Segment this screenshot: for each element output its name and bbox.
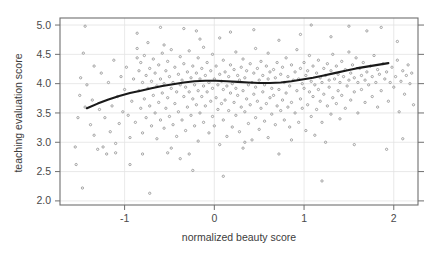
data-point [111,105,113,107]
data-point [127,114,129,116]
data-point [245,98,247,100]
data-point [348,51,350,53]
data-point [74,146,76,148]
data-point [366,30,368,32]
scatter-plot: 2.02.53.03.54.04.55.0 -1012 normalized b… [0,0,448,256]
data-point [348,79,350,81]
data-point [321,180,323,182]
data-point [407,64,409,66]
data-point [357,81,359,83]
data-point [158,101,160,103]
tick-marks [55,25,424,210]
data-point [242,58,244,60]
data-point [290,101,292,103]
data-point [129,136,131,138]
data-point [296,90,298,92]
data-point [175,91,177,93]
data-point [197,140,199,142]
data-point [376,68,378,70]
data-point [149,192,151,194]
data-point [215,65,217,67]
fit-curve [87,63,388,108]
data-point [231,126,233,128]
data-point [134,121,136,123]
data-point [143,54,145,56]
data-point [158,64,160,66]
data-point [145,117,147,119]
data-point [168,75,170,77]
data-point [114,142,116,144]
data-point [296,49,298,51]
data-point [195,104,197,106]
data-point [190,77,192,79]
data-point [330,70,332,72]
data-point [197,57,199,59]
data-point [235,114,237,116]
data-point [317,88,319,90]
data-point [77,117,79,119]
plot-frame [60,18,418,205]
data-point [260,60,262,62]
data-point [411,72,413,74]
data-point [310,80,312,82]
data-point [150,125,152,127]
data-point [206,91,208,93]
data-point [330,113,332,115]
data-point [222,88,224,90]
data-point [172,124,174,126]
data-point [181,79,183,81]
data-point [75,163,77,165]
data-point [260,107,262,109]
data-point [319,100,321,102]
data-point [337,90,339,92]
data-point [84,25,86,27]
data-point [184,129,186,131]
data-point [276,61,278,63]
data-point [321,121,323,123]
data-point [253,93,255,95]
data-point [335,65,337,67]
data-point [274,124,276,126]
data-point [371,75,373,77]
data-point [220,102,222,104]
data-point [152,94,154,96]
data-point [201,67,203,69]
data-point [175,135,177,137]
data-point [306,104,308,106]
data-point [233,101,235,103]
data-point [229,92,231,94]
data-point [287,75,289,77]
y-tick-label: 4.5 [36,48,51,60]
data-point [199,38,201,40]
data-point [384,78,386,80]
data-point [271,87,273,89]
data-point [269,71,271,73]
data-point [280,109,282,111]
data-point [235,51,237,53]
data-point [244,77,246,79]
data-point [380,26,382,28]
data-point [177,73,179,75]
data-point [278,88,280,90]
data-point [262,91,264,93]
data-point [179,158,181,160]
data-point [262,74,264,76]
data-point [201,95,203,97]
data-point [348,25,350,27]
data-point [254,86,256,88]
data-point [237,74,239,76]
y-tick-label: 2.0 [36,194,51,206]
data-point [161,92,163,94]
data-point [106,153,108,155]
x-tick-label: -1 [120,212,129,224]
data-point [289,126,291,128]
data-point [226,85,228,87]
data-point [149,67,151,69]
y-tick-label: 3.5 [36,107,51,119]
data-point [79,77,81,79]
data-point [350,72,352,74]
y-tick-label: 4.0 [36,77,51,89]
data-point [104,117,106,119]
data-point [235,87,237,89]
data-point [353,77,355,79]
